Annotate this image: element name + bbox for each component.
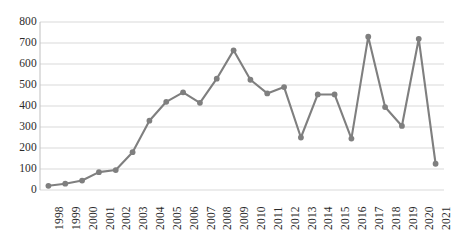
x-axis-tick-label: 2010 — [255, 206, 267, 230]
x-axis-tick-label: 2003 — [137, 206, 149, 230]
x-axis-tick-label: 1999 — [70, 206, 82, 230]
x-axis-tick-label: 2020 — [423, 206, 435, 230]
x-axis-tick-label: 2002 — [120, 206, 132, 230]
x-axis-tick-label: 2015 — [339, 206, 351, 230]
x-axis-tick-label: 2021 — [440, 206, 452, 230]
x-axis-tick-label: 2013 — [306, 206, 318, 230]
x-axis-tick-label: 2014 — [322, 206, 334, 230]
x-axis-tick-label: 2018 — [390, 206, 402, 230]
x-axis-tick-label: 2019 — [407, 206, 419, 230]
x-axis-tick-label: 2012 — [289, 206, 301, 230]
x-axis-tick-label: 2011 — [272, 207, 284, 230]
x-axis-tick-label: 2009 — [238, 206, 250, 230]
x-axis-tick-label: 2005 — [171, 206, 183, 230]
x-axis-tick-label: 2006 — [188, 206, 200, 230]
x-axis-tick-label: 2000 — [87, 206, 99, 230]
x-axis-tick-label: 2004 — [154, 206, 166, 230]
x-axis-tick-label: 2001 — [104, 206, 116, 230]
x-axis-tick-label: 2017 — [373, 206, 385, 230]
x-axis-tick-label: 2007 — [205, 206, 217, 230]
x-axis-tick-label: 1998 — [53, 206, 65, 230]
x-axis-tick-label: 2016 — [356, 206, 368, 230]
x-axis-tick-label: 2008 — [221, 206, 233, 230]
